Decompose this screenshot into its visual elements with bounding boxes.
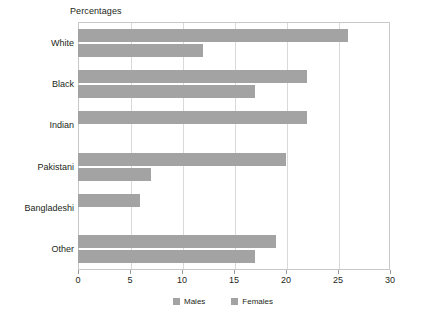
x-tick-mark <box>182 270 183 274</box>
bar <box>78 29 348 42</box>
bar <box>78 111 307 124</box>
legend-swatch-icon <box>231 298 238 305</box>
bar <box>78 194 140 207</box>
x-tick-mark <box>390 270 391 274</box>
bars-layer <box>78 22 390 270</box>
x-axis: 051015202530 <box>78 270 390 290</box>
category-label-black: Black <box>2 79 74 89</box>
legend-label: Females <box>242 297 273 306</box>
bar <box>78 44 203 57</box>
category-label-pakistani: Pakistani <box>2 162 74 172</box>
chart-title: Percentages <box>70 6 122 16</box>
x-tick-label: 15 <box>229 275 239 285</box>
category-label-white: White <box>2 38 74 48</box>
bar <box>78 85 255 98</box>
x-tick-mark <box>130 270 131 274</box>
bar <box>78 153 286 166</box>
x-tick-mark <box>338 270 339 274</box>
category-label-other: Other <box>2 244 74 254</box>
bar <box>78 70 307 83</box>
x-tick-mark <box>234 270 235 274</box>
legend-swatch-icon <box>173 298 180 305</box>
bar <box>78 168 151 181</box>
bar <box>78 235 276 248</box>
x-tick-mark <box>78 270 79 274</box>
x-tick-mark <box>286 270 287 274</box>
legend-label: Males <box>184 297 205 306</box>
x-tick-label: 20 <box>281 275 291 285</box>
x-tick-label: 10 <box>177 275 187 285</box>
legend-item-females[interactable]: Females <box>231 297 273 306</box>
category-label-bangladeshi: Bangladeshi <box>2 203 74 213</box>
x-tick-label: 0 <box>75 275 80 285</box>
category-axis-labels: WhiteBlackIndianPakistaniBangladeshiOthe… <box>0 22 74 270</box>
x-tick-label: 30 <box>385 275 395 285</box>
bar-chart: Percentages WhiteBlackIndianPakistaniBan… <box>0 0 446 320</box>
x-tick-label: 25 <box>333 275 343 285</box>
chart-legend: MalesFemales <box>0 297 446 306</box>
x-tick-label: 5 <box>127 275 132 285</box>
category-label-indian: Indian <box>2 120 74 130</box>
bar <box>78 250 255 263</box>
legend-item-males[interactable]: Males <box>173 297 205 306</box>
